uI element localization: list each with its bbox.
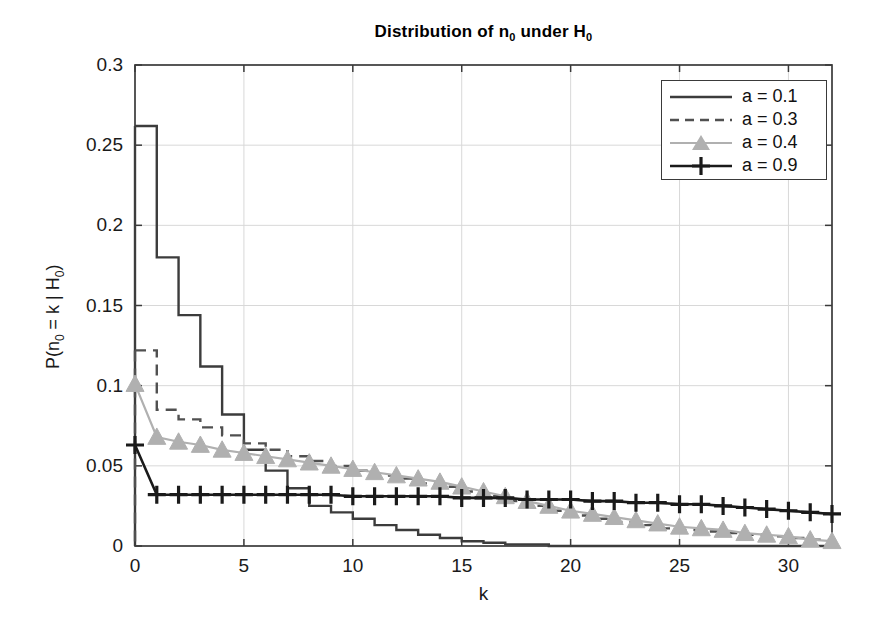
data-point-marker [562, 491, 580, 509]
series-a-0-3 [135, 350, 832, 546]
ylabel-sub-1: 0 [53, 334, 67, 341]
legend-item-label: a = 0.1 [742, 86, 798, 107]
y-axis-tick-label: 0 [0, 535, 123, 557]
data-point-marker [714, 497, 732, 515]
data-point-marker [366, 487, 384, 505]
data-point-marker [779, 502, 797, 520]
data-point-marker [213, 486, 231, 504]
legend-line-swatch [668, 110, 734, 130]
legend-line-swatch [668, 156, 734, 176]
legend-item[interactable]: a = 0.4 [668, 131, 820, 154]
data-point-marker [583, 492, 601, 510]
data-point-marker [235, 486, 253, 504]
x-axis-tick-label: 25 [669, 555, 690, 577]
x-axis-tick-label: 30 [778, 555, 799, 577]
y-axis-tick-label: 0.3 [0, 54, 123, 76]
x-axis-label: k [135, 583, 832, 605]
y-axis-tick-label: 0.05 [0, 455, 123, 477]
legend-item-label: a = 0.9 [742, 155, 798, 176]
data-point-marker [387, 487, 405, 505]
legend-item[interactable]: a = 0.1 [668, 85, 820, 108]
series-line [135, 350, 832, 541]
ylabel-pre: P(n [43, 341, 63, 369]
data-point-marker [823, 505, 841, 523]
data-point-marker [126, 436, 144, 454]
data-point-marker [801, 503, 819, 521]
y-axis-tick-label: 0.2 [0, 214, 123, 236]
data-point-marker [627, 494, 645, 512]
data-point-marker [257, 486, 275, 504]
series-a-0-9 [126, 436, 841, 523]
x-axis-tick-label: 5 [239, 555, 250, 577]
data-point-marker [475, 489, 493, 507]
series-line [135, 384, 832, 541]
ylabel-post: ) [43, 265, 63, 271]
ylabel-sub-2: 0 [53, 271, 67, 278]
x-axis-tick-label: 15 [451, 555, 472, 577]
data-point-marker [126, 375, 144, 391]
legend-item[interactable]: a = 0.9 [668, 154, 820, 177]
data-point-marker [431, 487, 449, 505]
data-point-marker [191, 486, 209, 504]
series-a-0-4 [126, 375, 841, 549]
chart-legend: a = 0.1a = 0.3a = 0.4a = 0.9 [661, 80, 827, 180]
legend-item-label: a = 0.4 [742, 132, 798, 153]
data-point-marker [148, 486, 166, 504]
figure-canvas: Distribution of n0 under H0 P(n0 = k | H… [0, 0, 887, 627]
y-axis-tick-label: 0.1 [0, 375, 123, 397]
y-axis-tick-label: 0.25 [0, 134, 123, 156]
x-axis-tick-label: 0 [130, 555, 141, 577]
x-axis-tick-label: 20 [560, 555, 581, 577]
data-point-marker [409, 487, 427, 505]
data-point-marker [170, 486, 188, 504]
data-point-marker [736, 499, 754, 517]
data-point-marker [322, 486, 340, 504]
data-point-marker [605, 492, 623, 510]
data-point-marker [649, 494, 667, 512]
x-axis-tick-label: 10 [342, 555, 363, 577]
y-axis-tick-label: 0.15 [0, 295, 123, 317]
data-point-marker [692, 495, 710, 513]
data-point-marker [758, 500, 776, 518]
legend-item-label: a = 0.3 [742, 109, 798, 130]
data-point-marker [496, 489, 514, 507]
legend-line-swatch [668, 133, 734, 153]
legend-line-swatch [668, 87, 734, 107]
data-point-marker [671, 495, 689, 513]
data-point-marker [148, 428, 166, 444]
legend-item[interactable]: a = 0.3 [668, 108, 820, 131]
data-point-marker [344, 487, 362, 505]
